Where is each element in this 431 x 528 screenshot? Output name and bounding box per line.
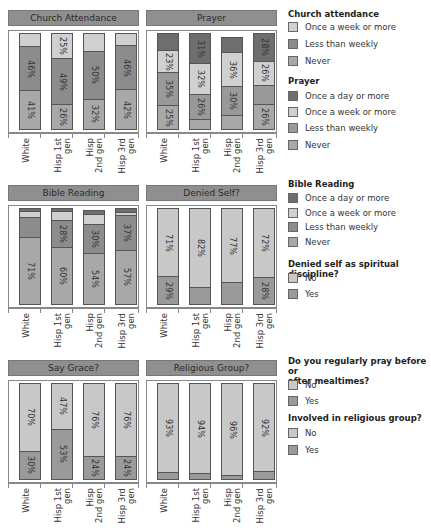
bar-segment: 71% [158,209,178,276]
legend-item: Yes [288,395,319,407]
legend-item: No [288,379,317,391]
x-axis-label: White [15,313,43,359]
x-axis-label: Hisp 1st gen [185,488,213,528]
data-label: 70% [26,408,35,426]
data-label: 49% [58,73,67,91]
swatch [288,445,298,455]
bar-segment: 53% [52,429,72,479]
data-label: 28% [58,225,67,243]
bar: 26%26%28% [253,33,275,130]
bar-segment: 47% [52,384,72,429]
bar-segment: 35% [158,72,178,105]
data-label: 26% [196,98,205,116]
x-axis-label: Hisp 3rd gen [249,138,277,184]
x-axis-label: Hisp 2nd gen [79,488,107,528]
chart-title: Denied Self? [146,185,277,201]
x-tick [242,309,243,313]
data-label: 30% [90,230,99,248]
x-axis [8,133,139,138]
bar-segment: 28% [254,34,274,61]
plot-area: 29%71%82%77%28%72% [146,205,277,308]
x-tick [8,309,9,313]
x-axis-label: Hisp 3rd gen [111,488,139,528]
plot-area: 25%35%23%26%32%31%30%36%26%26%28% [146,30,277,133]
bar-segment: 23% [158,50,178,72]
chart-religious-group: Religious Group? 93%94%96%92% WhiteHisp … [146,360,277,528]
chart-title: Prayer [146,10,277,26]
plot-area: 30%70%53%47%24%76%24%76% [8,380,139,483]
bar: 42%46% [115,33,137,130]
bar-segment: 24% [116,456,136,479]
x-axis-label: Hisp 1st gen [185,138,213,184]
x-tick [104,134,105,138]
x-axis-label: Hisp 3rd gen [111,138,139,184]
bar: 28%72% [253,208,275,305]
chart-title: Say Grace? [8,360,139,376]
x-axis-label: White [153,313,181,359]
legend-item: Never [288,139,330,151]
bar-segment: 50% [84,51,104,99]
x-axis-label: Hisp 1st gen [47,488,75,528]
data-label: 28% [260,282,269,300]
data-label: 30% [228,92,237,110]
legend-item: Yes [288,288,319,300]
legend: Church attendance Once a week or more Le… [288,0,431,528]
data-label: 25% [164,109,173,127]
bar-segment: 26% [254,104,274,129]
swatch [288,208,298,218]
swatch [288,396,298,406]
bar-segment: 36% [222,52,242,86]
swatch [288,107,298,117]
bar-segment [158,34,178,50]
data-label: 35% [164,80,173,98]
bar-segment: 60% [52,247,72,304]
x-tick [138,484,139,488]
legend-item: Once a day or more [288,90,389,102]
legend-title-bible: Bible Reading [288,179,431,189]
data-label: 24% [90,459,99,477]
legend-item: Less than weekly [288,221,378,233]
bar-segment [116,34,136,45]
bar-segment: 25% [158,105,178,129]
data-label: 76% [122,411,131,429]
legend-item: No [288,427,317,439]
legend-item: Less than weekly [288,122,378,134]
bar-segment [222,38,242,52]
x-axis [8,483,139,488]
data-label: 94% [196,420,205,438]
bar-segment [222,282,242,304]
bar: 32%50% [83,33,105,130]
x-axis [8,308,139,313]
legend-item: No [288,272,317,284]
data-label: 41% [26,101,35,119]
bar: 57%37% [115,208,137,305]
x-axis-label: Hisp 1st gen [185,313,213,359]
legend-item: Once a day or more [288,192,389,204]
x-tick [72,134,73,138]
data-label: 25% [58,37,67,55]
swatch [288,289,298,299]
x-tick [210,484,211,488]
bar-segment [158,472,178,479]
bar-segment [254,85,274,104]
data-label: 46% [26,60,35,78]
x-axis-label: Hisp 2nd gen [217,138,245,184]
bar: 82% [189,208,211,305]
bar-segment [116,209,136,212]
bar-segment: 42% [116,89,136,129]
bar: 25%35%23% [157,33,179,130]
data-label: 46% [122,59,131,77]
bar-segment [20,211,40,217]
swatch [288,428,298,438]
bar-segment: 76% [84,384,104,456]
data-label: 72% [260,234,269,252]
data-label: 23% [164,53,173,71]
data-label: 71% [26,262,35,280]
bar-segment [222,475,242,479]
swatch [288,91,298,101]
data-label: 76% [90,411,99,429]
x-axis-label: White [153,138,181,184]
bar: 24%76% [115,383,137,480]
bar-segment: 30% [222,86,242,114]
x-axis-label: White [15,138,43,184]
